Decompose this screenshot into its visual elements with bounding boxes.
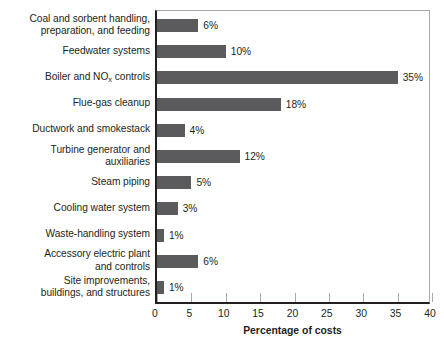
x-axis-tick-5	[191, 293, 192, 302]
category-label: Coal and sorbent handling, preparation, …	[0, 13, 150, 37]
category-label: Site improvements, buildings, and struct…	[0, 275, 150, 299]
bar	[157, 281, 164, 294]
bar-value-label: 35%	[403, 71, 423, 84]
bar	[157, 45, 226, 58]
x-axis-tick-20	[295, 293, 296, 302]
bar	[157, 124, 185, 137]
x-axis-tick-label-10: 10	[218, 307, 230, 321]
bar	[157, 71, 398, 84]
x-axis-tick-label-15: 15	[252, 307, 264, 321]
bar	[157, 150, 240, 163]
bar-value-label: 4%	[190, 124, 205, 137]
category-label: Cooling water system	[0, 202, 150, 214]
x-axis-tick-0	[157, 293, 158, 302]
bar	[157, 176, 191, 189]
category-axis-labels: Coal and sorbent handling, preparation, …	[0, 10, 150, 304]
x-axis-title: Percentage of costs	[155, 325, 430, 336]
x-axis-tick-label-5: 5	[186, 307, 192, 321]
bar-value-label: 6%	[203, 19, 218, 32]
category-label: Ductwork and smokestack	[0, 123, 150, 135]
bar-value-label: 18%	[286, 98, 306, 111]
category-label: Accessory electric plant and controls	[0, 248, 150, 272]
x-axis-tick-40	[432, 293, 433, 302]
subscript-x: x	[108, 75, 112, 84]
bar	[157, 229, 164, 242]
category-label: Turbine generator and auxiliaries	[0, 144, 150, 168]
x-axis-tick-labels: 0510152025303540	[155, 307, 430, 323]
bar	[157, 202, 178, 215]
x-axis-tick-label-0: 0	[152, 307, 158, 321]
x-axis-tick-label-30: 30	[355, 307, 367, 321]
category-label: Boiler and NOx controls	[0, 71, 150, 83]
category-label: Waste-handling system	[0, 228, 150, 240]
category-label: Flue-gas cleanup	[0, 97, 150, 109]
bar-value-label: 1%	[169, 229, 184, 242]
bar-value-label: 6%	[203, 255, 218, 268]
x-axis-tick-15	[260, 293, 261, 302]
x-axis-tick-label-35: 35	[390, 307, 402, 321]
plot-area: 6%10%35%18%4%12%5%3%1%6%1%	[155, 10, 430, 304]
x-axis-tick-35	[398, 293, 399, 302]
x-axis-tick-label-25: 25	[321, 307, 333, 321]
bar	[157, 255, 198, 268]
bar	[157, 98, 281, 111]
x-axis-tick-label-40: 40	[424, 307, 436, 321]
x-axis-tick-label-20: 20	[287, 307, 299, 321]
bar	[157, 19, 198, 32]
bar-value-label: 1%	[169, 281, 184, 294]
bar-value-label: 5%	[196, 176, 211, 189]
bar-chart: Coal and sorbent handling, preparation, …	[0, 0, 444, 351]
x-axis-tick-25	[329, 293, 330, 302]
bar-value-label: 3%	[183, 202, 198, 215]
bar-value-label: 12%	[245, 150, 265, 163]
x-axis-tick-30	[363, 293, 364, 302]
x-axis-tick-10	[226, 293, 227, 302]
category-label: Feedwater systems	[0, 45, 150, 57]
category-label: Steam piping	[0, 176, 150, 188]
bar-value-label: 10%	[231, 45, 251, 58]
